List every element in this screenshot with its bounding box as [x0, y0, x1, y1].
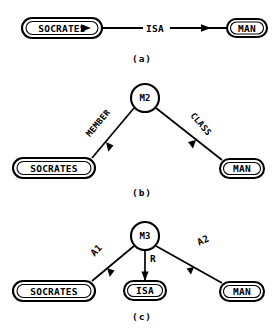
- panel-a: SOCRATES ISA MAN (a): [22, 18, 267, 64]
- edge-label-a1-c: A1: [88, 242, 104, 258]
- node-label-socrates: SOCRATES: [30, 286, 77, 297]
- panel-b: M2 MEMBER SOCRATES CLASS: [13, 84, 264, 198]
- edge-m3-to-isa-c: [141, 250, 148, 281]
- edge-line-segment: [156, 246, 222, 283]
- node-m3-c[interactable]: M3: [131, 222, 159, 250]
- arrow-head-icon: [141, 272, 148, 282]
- panel-c: M3 A1 SOCRATES R: [13, 222, 264, 322]
- node-socrates-b[interactable]: SOCRATES: [13, 158, 95, 178]
- arrow-head-icon: [107, 268, 115, 277]
- node-label-m3: M3: [139, 231, 150, 241]
- node-man-a[interactable]: MAN: [227, 19, 267, 37]
- node-label-socrates: SOCRATES: [30, 163, 77, 174]
- edge-label-class-b: CLASS: [189, 110, 214, 137]
- arrow-head-icon: [187, 267, 195, 275]
- edge-label-member-b: MEMBER: [84, 107, 113, 139]
- edge-label-isa-a: ISA: [146, 23, 164, 34]
- node-label-isa: ISA: [136, 285, 154, 296]
- semantic-network-figure: SOCRATES ISA MAN (a): [0, 0, 280, 330]
- node-man-c[interactable]: MAN: [220, 282, 264, 301]
- figure-canvas: SOCRATES ISA MAN (a): [0, 0, 280, 330]
- edge-label-a2-c: A2: [195, 233, 210, 248]
- node-m2-b[interactable]: M2: [131, 84, 159, 112]
- node-label-socrates: SOCRATES: [38, 23, 85, 34]
- node-label-man: MAN: [238, 23, 256, 34]
- arrow-head-icon: [106, 142, 114, 152]
- edge-m3-to-man-c: [156, 246, 222, 283]
- panel-caption-c: (c): [132, 311, 152, 322]
- node-socrates-c[interactable]: SOCRATES: [13, 281, 95, 301]
- node-isa-c[interactable]: ISA: [124, 281, 166, 300]
- panel-caption-a: (a): [132, 53, 152, 64]
- node-label-man: MAN: [233, 163, 251, 174]
- node-label-m2: M2: [139, 93, 150, 103]
- node-man-b[interactable]: MAN: [220, 159, 264, 178]
- arrow-head-icon: [201, 24, 211, 32]
- edge-isa-to-man-a: [170, 24, 228, 32]
- panel-caption-b: (b): [132, 187, 152, 198]
- arrow-head-icon: [188, 140, 196, 149]
- node-label-man: MAN: [233, 286, 251, 297]
- edge-label-r-c: R: [150, 253, 156, 264]
